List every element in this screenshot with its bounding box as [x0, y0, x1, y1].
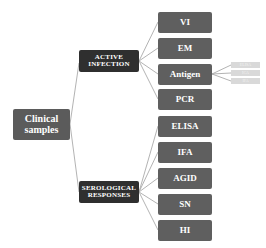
root-label-line1: Clinical	[25, 114, 59, 125]
branch-label-line2: RESPONSES	[82, 192, 136, 199]
diagnostic-tree-diagram: Clinicalsamples ACTIVEINFECTION SEROLOGI…	[0, 0, 266, 248]
antigen-sub-elisa: ELISA	[231, 62, 260, 68]
antigen-sub-ifa: IFA	[231, 78, 260, 84]
leaf-node-ifa: IFA	[158, 142, 212, 163]
root-node-clinical-samples: Clinicalsamples	[13, 109, 70, 140]
leaf-node-pcr: PCR	[158, 89, 212, 110]
root-label-line2: samples	[25, 125, 59, 136]
leaf-node-agid: AGID	[158, 168, 212, 189]
branch-node-active-infection: ACTIVEINFECTION	[79, 50, 139, 72]
leaf-node-vi: VI	[158, 12, 212, 33]
antigen-sub-ica: ICA	[231, 70, 260, 76]
leaf-node-elisa: ELISA	[158, 116, 212, 137]
leaf-node-sn: SN	[158, 194, 212, 215]
branch-label-line2: INFECTION	[88, 61, 129, 68]
leaf-node-em: EM	[158, 38, 212, 59]
branch-node-serological-responses: SEROLOGICALRESPONSES	[79, 181, 139, 203]
leaf-node-antigen: Antigen	[158, 64, 212, 85]
leaf-node-hi: HI	[158, 220, 212, 241]
